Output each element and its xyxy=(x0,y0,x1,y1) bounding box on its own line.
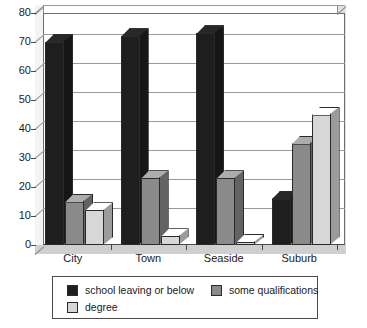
y-tick-label-10: 10 xyxy=(1,210,31,221)
legend-item-1[interactable]: some qualifications xyxy=(211,285,318,296)
y-tick-label-80: 80 xyxy=(1,7,31,18)
bar-town-school-leaving-or-below xyxy=(121,36,140,245)
gridline-60 xyxy=(43,63,345,64)
chart-legend: school leaving or below some qualificati… xyxy=(52,276,318,319)
x-axis-label-suburb: Suburb xyxy=(262,252,338,264)
y-tick-label-70: 70 xyxy=(1,36,31,47)
bar-face xyxy=(216,178,235,245)
legend-swatch-some-qualifications xyxy=(211,285,222,296)
bar-face xyxy=(312,115,331,246)
bar-chart: 01020304050607080 CityTownSeasideSuburb … xyxy=(0,0,367,328)
bar-face xyxy=(141,178,160,245)
y-tick-mark-40 xyxy=(31,129,36,130)
x-tick-city xyxy=(111,245,112,250)
legend-item-0[interactable]: school leaving or below xyxy=(67,285,194,296)
plot-area: 01020304050607080 CityTownSeasideSuburb xyxy=(0,0,367,268)
bar-seaside-some-qualifications xyxy=(216,178,235,245)
bar-face xyxy=(45,42,64,245)
x-tick-seaside xyxy=(262,245,263,250)
bar-seaside-school-leaving-or-below xyxy=(196,33,215,245)
bar-face xyxy=(121,36,140,245)
y-tick-mark-50 xyxy=(31,100,36,101)
x-axis-label-seaside: Seaside xyxy=(186,252,262,264)
legend-label-2: degree xyxy=(85,302,118,313)
gridline-50 xyxy=(43,92,345,93)
y-tick-mark-0 xyxy=(31,245,36,246)
x-tick-suburb xyxy=(337,245,338,250)
bar-city-degree xyxy=(85,210,104,245)
bar-city-some-qualifications xyxy=(65,202,84,246)
y-tick-label-30: 30 xyxy=(1,152,31,163)
bar-face xyxy=(85,210,104,245)
bar-suburb-school-leaving-or-below xyxy=(272,199,291,245)
legend-item-2[interactable]: degree xyxy=(67,302,118,313)
legend-swatch-degree xyxy=(67,302,78,313)
legend-label-1: some qualifications xyxy=(229,285,318,296)
y-tick-mark-10 xyxy=(31,216,36,217)
legend-swatch-school-leaving-or-below xyxy=(67,285,78,296)
y-tick-label-50: 50 xyxy=(1,94,31,105)
y-tick-label-0: 0 xyxy=(1,239,31,250)
gridline-80 xyxy=(43,5,345,6)
bar-face xyxy=(272,199,291,245)
gridline-70 xyxy=(43,34,345,35)
bar-town-some-qualifications xyxy=(141,178,160,245)
y-tick-mark-60 xyxy=(31,71,36,72)
bar-face xyxy=(65,202,84,246)
x-tick-town xyxy=(186,245,187,250)
bar-suburb-degree xyxy=(312,115,331,246)
bar-face xyxy=(196,33,215,245)
y-tick-label-40: 40 xyxy=(1,123,31,134)
bar-seaside-degree xyxy=(236,242,255,245)
x-axis-label-city: City xyxy=(35,252,111,264)
bar-side-face xyxy=(234,170,244,245)
bar-city-school-leaving-or-below xyxy=(45,42,64,245)
legend-label-0: school leaving or below xyxy=(85,285,194,296)
bar-town-degree xyxy=(161,236,180,245)
y-tick-label-20: 20 xyxy=(1,181,31,192)
bar-face xyxy=(292,144,311,246)
bar-side-face xyxy=(330,107,340,246)
gridline-40 xyxy=(43,121,345,122)
bar-face xyxy=(161,236,180,245)
x-axis-label-town: Town xyxy=(111,252,187,264)
y-tick-label-60: 60 xyxy=(1,65,31,76)
bar-suburb-some-qualifications xyxy=(292,144,311,246)
y-tick-mark-70 xyxy=(31,42,36,43)
y-tick-mark-20 xyxy=(31,187,36,188)
y-tick-mark-80 xyxy=(31,13,36,14)
y-tick-mark-30 xyxy=(31,158,36,159)
